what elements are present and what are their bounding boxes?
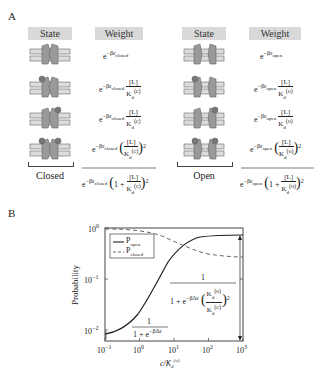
xtick-1e-1: 10−1 (97, 344, 111, 355)
sup: (c) (214, 304, 221, 310)
exp: −βΔε (186, 295, 199, 301)
annotation-low-den: 1 + e−βΔε (133, 328, 162, 339)
annotation-low-num: 1 (147, 317, 151, 326)
exp: −2 (92, 325, 98, 331)
xtick-1e1: 101 (168, 344, 179, 355)
xtick-1e2: 102 (202, 344, 213, 355)
text: 1 + e (133, 330, 149, 339)
ten: 10 (202, 346, 210, 355)
x-axis-label: c/Kd(o) (160, 358, 179, 369)
annotation-high-den: 1 + e−βΔε (Kd(o)Kd(c))2 (170, 287, 230, 317)
xtick-1e3: 103 (236, 344, 247, 355)
exp: 1 (176, 344, 179, 350)
ten: 10 (97, 346, 105, 355)
exp: 3 (244, 344, 247, 350)
y-axis-label: Probability (70, 255, 80, 315)
sub: closed (130, 252, 143, 257)
d: d (212, 310, 215, 315)
exp: −βΔε (149, 328, 162, 334)
text: 1 + e (170, 297, 186, 306)
d: d (212, 295, 215, 300)
legend-p-open: Popen (126, 236, 140, 247)
xtick-1e0: 100 (133, 344, 144, 355)
den: Kd(c) (206, 303, 223, 318)
exp: 2 (210, 344, 213, 350)
annotation-high-num: 1 (201, 273, 205, 282)
ytick-1e-2: 10−2 (84, 325, 98, 336)
ten: 10 (88, 225, 96, 234)
ten: 10 (236, 346, 244, 355)
ten: 10 (133, 346, 141, 355)
ten: 10 (84, 327, 92, 336)
fraction: Kd(o)Kd(c) (206, 287, 223, 317)
exp: 0 (141, 344, 144, 350)
legend-p-closed: Pclosed (126, 246, 143, 257)
ten: 10 (168, 346, 176, 355)
sup: (o) (214, 288, 221, 294)
ytick-1e-1: 10−1 (84, 274, 98, 285)
exp: 0 (96, 223, 99, 229)
ytick-1e0: 100 (88, 223, 99, 234)
square: 2 (227, 295, 230, 301)
exp: −1 (92, 274, 98, 280)
num: Kd(o) (206, 287, 223, 303)
exp: −1 (105, 344, 111, 350)
ten: 10 (84, 276, 92, 285)
